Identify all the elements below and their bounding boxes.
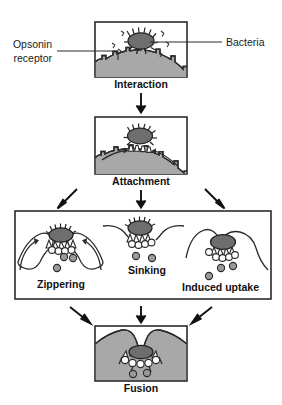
granule <box>143 369 150 376</box>
arrow-down-icon-1 <box>137 93 146 113</box>
bacteria-cell-2 <box>128 128 153 144</box>
panel-caption-attachment: Attachment <box>112 175 170 187</box>
arrow-diagonal-right-icon <box>205 189 225 209</box>
phagocytosis-diagram: Interaction Opsonin receptor Bacteria <box>0 0 282 405</box>
granule <box>148 254 155 261</box>
panel-interaction: Interaction <box>95 22 187 90</box>
bacteria-cell-induced <box>211 235 236 250</box>
granule <box>60 253 67 260</box>
arrow-group-mechanisms-to-fusion <box>70 306 212 324</box>
arrow-diagonal-left-icon <box>58 189 78 209</box>
panel-fusion: Fusion <box>95 326 187 394</box>
mechanism-label-sinking: Sinking <box>128 264 166 276</box>
opsonin-receptor-label-line2: receptor <box>13 52 52 64</box>
granule <box>53 264 60 271</box>
arrow-down-icon-2 <box>137 190 146 208</box>
mechanism-label-induced-uptake: Induced uptake <box>182 281 259 293</box>
arrow-diagonal-right-icon-2 <box>70 307 91 324</box>
granule <box>129 370 136 377</box>
arrow-group-attachment-to-mechanisms <box>58 189 225 209</box>
panel-mechanisms: Zippering <box>15 211 271 299</box>
opsonin-receptor-label-line1: Opsonin <box>13 38 52 50</box>
bacteria-label: Bacteria <box>226 36 265 48</box>
panel-caption-fusion: Fusion <box>124 382 158 394</box>
bacteria-cell <box>128 33 154 49</box>
bacteria-cell-fusion <box>129 345 153 358</box>
panel-caption-interaction: Interaction <box>114 78 168 90</box>
granule <box>205 272 212 279</box>
granule <box>229 262 236 269</box>
arrow-down-icon-3 <box>137 306 146 323</box>
granule <box>217 264 224 271</box>
arrow-diagonal-left-icon-2 <box>192 307 213 324</box>
panel-attachment: Attachment <box>95 117 187 187</box>
granule <box>69 254 76 261</box>
granule <box>132 252 139 259</box>
mechanism-label-zippering: Zippering <box>37 278 85 290</box>
